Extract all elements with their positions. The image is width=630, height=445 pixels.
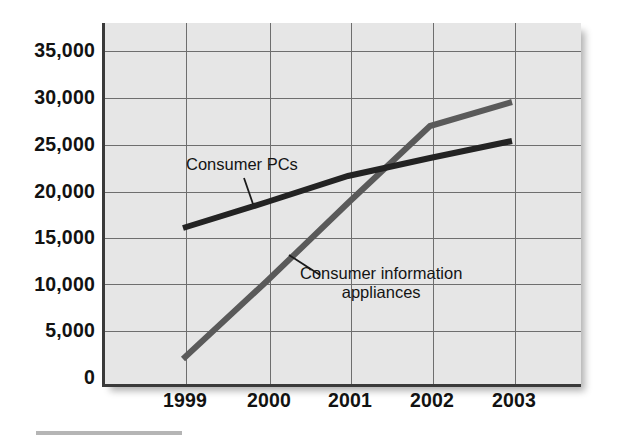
y-tick-label-5000: 5,000: [3, 321, 95, 341]
gridline-15000: [105, 238, 581, 239]
gridline-30000: [105, 98, 581, 99]
plot-grid: [105, 23, 581, 384]
x-tick-label-1999: 1999: [145, 391, 225, 411]
annotation-appliances-line1: Consumer information: [300, 264, 462, 282]
caption-rule: [36, 431, 182, 435]
y-tick-label-30000: 30,000: [3, 88, 95, 108]
gridline-2001: [351, 23, 352, 384]
x-tick-label-2003: 2003: [474, 391, 554, 411]
annotation-consumer-pcs: Consumer PCs: [186, 155, 298, 174]
x-tick-label-2001: 2001: [310, 391, 390, 411]
plot-area: [102, 23, 581, 387]
annotation-consumer-information-appliances: Consumer informationappliances: [300, 264, 462, 303]
x-tick-label-2000: 2000: [229, 391, 309, 411]
gridline-35000: [105, 51, 581, 52]
y-tick-label-35000: 35,000: [3, 41, 95, 61]
y-tick-label-10000: 10,000: [3, 275, 95, 295]
chart-figure: Consumer PCs Consumer informationapplian…: [0, 0, 630, 445]
gridline-2003: [515, 23, 516, 384]
y-tick-label-0: 0: [3, 368, 95, 388]
y-tick-label-25000: 25,000: [3, 135, 95, 155]
y-axis-tick-labels: 35,000 30,000 25,000 20,000 15,000 10,00…: [0, 0, 95, 445]
gridline-2000: [270, 23, 271, 384]
gridline-1999: [186, 23, 187, 384]
y-tick-label-20000: 20,000: [3, 182, 95, 202]
gridline-5000: [105, 331, 581, 332]
annotation-appliances-line2: appliances: [300, 283, 462, 302]
gridline-2002: [433, 23, 434, 384]
gridline-25000: [105, 145, 581, 146]
gridline-20000: [105, 192, 581, 193]
x-tick-label-2002: 2002: [392, 391, 472, 411]
y-tick-label-15000: 15,000: [3, 228, 95, 248]
